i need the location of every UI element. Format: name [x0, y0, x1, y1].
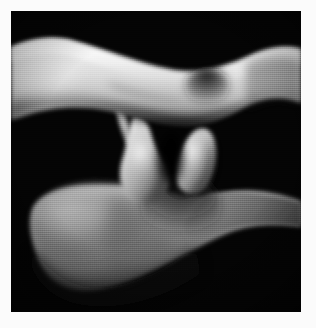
figure-caption	[0, 0, 1, 1]
figure-alt-text: 3D rendered grayscale anatomical structu…	[0, 0, 1, 1]
figure-frame: 3D rendered grayscale anatomical structu…	[0, 0, 316, 328]
upper-band-notch	[185, 67, 229, 107]
render-canvas	[11, 11, 301, 312]
upper-band	[11, 11, 301, 312]
